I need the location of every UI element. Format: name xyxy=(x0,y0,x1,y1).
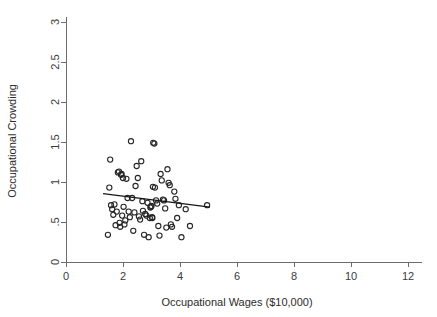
y-tick-label: 3 xyxy=(49,19,61,25)
scatter-point xyxy=(179,235,184,240)
tick-marks xyxy=(61,22,408,267)
scatter-point xyxy=(136,214,141,219)
scatter-point xyxy=(158,171,163,176)
regression-line xyxy=(103,194,210,208)
scatter-point xyxy=(124,176,129,181)
data-points xyxy=(105,139,209,240)
y-tick-label: 1.5 xyxy=(49,134,61,149)
scatter-point xyxy=(114,209,119,214)
fit-line xyxy=(103,194,210,208)
scatter-point xyxy=(156,223,161,228)
scatter-point xyxy=(120,213,125,218)
scatter-point xyxy=(146,235,151,240)
y-tick-label: 2 xyxy=(49,99,61,105)
x-tick-label: 4 xyxy=(177,270,183,282)
scatter-point xyxy=(126,209,131,214)
scatter-point xyxy=(134,163,139,168)
scatter-point xyxy=(127,215,132,220)
scatter-point xyxy=(163,206,168,211)
scatter-point xyxy=(183,207,188,212)
x-tick-label: 2 xyxy=(120,270,126,282)
scatter-point xyxy=(173,196,178,201)
y-tick-label: 0 xyxy=(49,259,61,265)
x-tick-label: 0 xyxy=(63,270,69,282)
scatter-point xyxy=(187,223,192,228)
y-tick-labels: 0.511.522.53 xyxy=(49,19,61,265)
scatter-point xyxy=(112,202,117,207)
scatter-point xyxy=(131,228,136,233)
scatter-point xyxy=(138,217,143,222)
x-tick-label: 10 xyxy=(345,270,357,282)
scatter-point xyxy=(128,139,133,144)
scatter-point xyxy=(175,215,180,220)
y-axis-label: Occupational Crowding xyxy=(6,84,18,198)
scatter-point xyxy=(135,175,140,180)
scatter-point xyxy=(121,204,126,209)
plot-canvas: 024681012 0.511.522.53 Occupational Wage… xyxy=(0,0,437,317)
scatter-point xyxy=(132,210,137,215)
scatter-point xyxy=(108,157,113,162)
scatter-point xyxy=(157,233,162,238)
x-axis-label: Occupational Wages ($10,000) xyxy=(161,296,312,308)
y-tick-label: 1 xyxy=(49,179,61,185)
x-tick-label: 6 xyxy=(234,270,240,282)
x-tick-label: 12 xyxy=(402,270,414,282)
y-tick-label: .5 xyxy=(49,217,61,226)
y-tick-label: 2.5 xyxy=(49,54,61,69)
scatter-point xyxy=(165,167,170,172)
scatter-point xyxy=(155,201,160,206)
scatter-point xyxy=(159,178,164,183)
x-tick-labels: 024681012 xyxy=(63,270,414,282)
scatter-point xyxy=(107,185,112,190)
scatter-point xyxy=(172,189,177,194)
scatter-plot-figure: 024681012 0.511.522.53 Occupational Wage… xyxy=(0,0,437,317)
x-tick-label: 8 xyxy=(291,270,297,282)
scatter-point xyxy=(105,232,110,237)
scatter-point xyxy=(139,159,144,164)
scatter-point xyxy=(133,183,138,188)
